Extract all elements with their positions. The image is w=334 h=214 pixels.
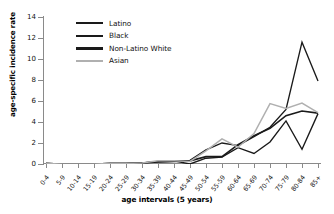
x-axis-title: age intervals (5 years) — [0, 195, 334, 204]
line-chart: age-specific incidence rate 02468101214 … — [0, 0, 334, 214]
x-tick-40-44 — [174, 164, 175, 168]
y-axis-tick-labels: 02468101214 — [0, 0, 36, 214]
legend-swatch-icon — [76, 47, 103, 50]
y-tick-label-10: 10 — [4, 55, 36, 63]
x-tick-15-19 — [94, 164, 95, 168]
legend-label: Non-Latino White — [109, 44, 171, 53]
x-tick-70-74 — [270, 164, 271, 168]
y-tick-label-12: 12 — [4, 34, 36, 42]
legend-item-non-latino-white[interactable]: Non-Latino White — [76, 42, 171, 55]
legend-label: Latino — [109, 19, 131, 28]
x-tick-65-69 — [254, 164, 255, 168]
x-tick-55-59 — [222, 164, 223, 168]
x-tick-30-34 — [142, 164, 143, 168]
x-tick-80-84 — [302, 164, 303, 168]
y-tick-label-14: 14 — [4, 13, 36, 21]
series-line-latino — [46, 114, 318, 164]
x-tick-20-24 — [110, 164, 111, 168]
x-tick-35-39 — [158, 164, 159, 168]
y-tick-label-0: 0 — [4, 160, 36, 168]
legend-label: Black — [109, 31, 129, 40]
x-tick-0-4 — [46, 164, 47, 168]
y-tick-label-6: 6 — [4, 97, 36, 105]
legend-swatch-icon — [76, 35, 103, 37]
x-tick-50-54 — [206, 164, 207, 168]
x-tick-45-49 — [190, 164, 191, 168]
x-tick-5-9 — [62, 164, 63, 168]
y-tick-label-2: 2 — [4, 139, 36, 147]
legend: LatinoBlackNon-Latino WhiteAsian — [76, 17, 171, 67]
legend-item-black[interactable]: Black — [76, 30, 171, 43]
legend-item-asian[interactable]: Asian — [76, 55, 171, 68]
y-tick-label-8: 8 — [4, 76, 36, 84]
legend-swatch-icon — [76, 22, 103, 24]
legend-label: Asian — [109, 56, 129, 65]
x-tick-85+ — [318, 164, 319, 168]
y-tick-label-4: 4 — [4, 118, 36, 126]
legend-swatch-icon — [76, 60, 103, 62]
x-tick-10-14 — [78, 164, 79, 168]
legend-item-latino[interactable]: Latino — [76, 17, 171, 30]
x-tick-60-64 — [238, 164, 239, 168]
x-tick-75-79 — [286, 164, 287, 168]
x-tick-25-29 — [126, 164, 127, 168]
